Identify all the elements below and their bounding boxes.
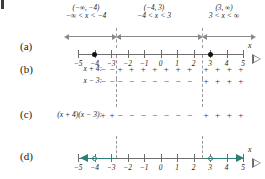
- tick-mark: [161, 154, 162, 162]
- sign-glyph-right: +: [214, 111, 222, 120]
- sign-glyph-middle: −: [186, 77, 194, 86]
- sign-glyph-right: +: [225, 77, 233, 86]
- sign-glyph-right: +: [214, 77, 222, 86]
- tick-label: −5: [71, 163, 85, 172]
- sign-glyph-right: +: [214, 65, 222, 74]
- sign-glyph-middle: +: [128, 65, 136, 74]
- tick-label: 1: [170, 163, 184, 172]
- solution-arrowhead-left-icon: [80, 154, 88, 162]
- tick-label: 3: [203, 163, 217, 172]
- sign-glyph-left: +: [108, 111, 116, 120]
- sign-glyph-right: +: [202, 111, 210, 120]
- figure-panel: (−∞, −4) −∞ < x < −4 (−4, 3) −4 < x < 3 …: [0, 0, 265, 179]
- solution-arrowhead-right-icon: [236, 154, 244, 162]
- sign-glyph-left: +: [99, 111, 107, 120]
- sign-glyph-middle: −: [116, 77, 124, 86]
- sign-glyph-middle: −: [151, 77, 159, 86]
- sign-glyph-middle: +: [162, 65, 170, 74]
- sign-glyph-middle: +: [174, 65, 182, 74]
- tick-label: 4: [220, 163, 234, 172]
- axis-label-d: x: [248, 145, 252, 154]
- tick-label: −1: [137, 163, 151, 172]
- number-line-d: −5−4−3−2−1012345: [78, 152, 243, 168]
- sign-glyph-middle: −: [128, 111, 136, 120]
- axis-arrowhead-d-icon: [252, 158, 261, 168]
- tick-label: −3: [104, 163, 118, 172]
- sign-glyph-left: −: [99, 77, 107, 86]
- tick-mark: [78, 154, 79, 162]
- sign-glyph-right: +: [237, 77, 245, 86]
- sign-glyph-middle: −: [151, 111, 159, 120]
- tick-label: 5: [236, 163, 250, 172]
- sign-glyph-middle: +: [151, 65, 159, 74]
- sign-glyph-middle: −: [139, 77, 147, 86]
- sign-glyph-left: −: [108, 77, 116, 86]
- sign-glyph-middle: −: [128, 77, 136, 86]
- tick-mark: [128, 154, 129, 162]
- sign-glyph-middle: +: [116, 65, 124, 74]
- sign-glyph-middle: −: [162, 111, 170, 120]
- tick-label: 2: [187, 163, 201, 172]
- sign-glyph-middle: +: [139, 65, 147, 74]
- sign-glyph-left: −: [108, 65, 116, 74]
- tick-mark: [144, 154, 145, 162]
- sign-glyph-right: +: [225, 65, 233, 74]
- sign-glyph-middle: −: [174, 111, 182, 120]
- sign-glyph-right: +: [202, 77, 210, 86]
- sign-glyph-middle: −: [174, 77, 182, 86]
- sign-glyph-right: +: [225, 111, 233, 120]
- sign-glyph-middle: −: [162, 77, 170, 86]
- sign-glyph-right: +: [202, 65, 210, 74]
- sign-glyph-right: +: [237, 111, 245, 120]
- solution-ray-left: [88, 158, 116, 159]
- tick-label: −2: [121, 163, 135, 172]
- sign-glyph-right: +: [237, 65, 245, 74]
- sign-glyph-middle: −: [116, 111, 124, 120]
- sign-glyph-middle: −: [186, 111, 194, 120]
- sign-glyph-middle: −: [139, 111, 147, 120]
- solution-ray-right: [204, 158, 236, 159]
- sign-glyph-middle: +: [186, 65, 194, 74]
- tick-mark: [177, 154, 178, 162]
- tick-label: −4: [88, 163, 102, 172]
- tick-mark: [194, 154, 195, 162]
- sign-glyph-left: −: [99, 65, 107, 74]
- row-label-d: (d): [20, 150, 33, 162]
- tick-label: 0: [154, 163, 168, 172]
